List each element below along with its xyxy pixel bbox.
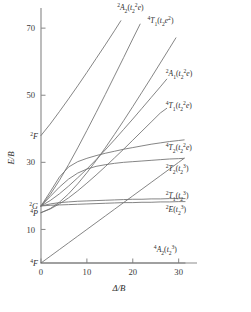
x-tick-label: 20 (128, 267, 137, 277)
axes-group (41, 8, 197, 263)
x-tick-label: 0 (39, 267, 43, 277)
chart-svg: 10305070 0102030 2F2G4P4F 2A2(t22e)4T1(t… (0, 0, 251, 312)
free-ion-term-4F: 4F (30, 258, 39, 268)
tanabe-sugano-chart: 10305070 0102030 2F2G4P4F 2A2(t22e)4T1(t… (0, 0, 251, 312)
curves-group (41, 21, 185, 263)
curve-2A2(t2^2 e) (41, 24, 140, 206)
free-ion-term-2F: 2F (30, 131, 39, 141)
curve-label-2A1(t2^2 e): 2A1(t22e) (166, 68, 193, 80)
y-tick-label: 30 (26, 157, 35, 167)
y-axis-title: E/B (6, 151, 16, 166)
x-axis-ticks: 0102030 (39, 259, 183, 278)
curve-label-2T2(t2^3): 2T2(t23) (166, 163, 189, 175)
curve-2T-steep-branch (41, 140, 184, 206)
curve-2F-branch (41, 21, 121, 136)
y-tick-label: 70 (26, 23, 35, 33)
curve-4T1(t2 e^2) (41, 38, 176, 213)
x-tick-label: 30 (174, 267, 183, 277)
free-ion-term-labels: 2F2G4P4F (29, 131, 39, 269)
curve-label-4T1(t2^2 e): 4T1(t22e) (166, 100, 192, 112)
x-axis-title: Δ/B (112, 283, 127, 293)
y-tick-label: 50 (26, 90, 35, 100)
curve-label-4A2(t2^3): 4A2(t23) (154, 244, 177, 256)
curve-label-2E(t2^3): 2E(t23) (166, 204, 187, 216)
curve-label-2A2(t2^2 e): 2A2(t22e) (117, 2, 144, 14)
x-tick-label: 10 (83, 267, 92, 277)
free-ion-term-4P: 4P (30, 208, 38, 218)
curve-label-2T1(t2^3): 2T1(t23) (166, 190, 189, 202)
curve-label-4T2(t2^2 e): 4T2(t22e) (166, 142, 192, 154)
curve-label-4T1(t2 e^2): 4T1(t2e2) (147, 15, 173, 27)
curve-labels-group: 2A2(t22e)4T1(t2e2)2A1(t22e)4T1(t22e)4T2(… (117, 2, 192, 257)
y-tick-label: 10 (26, 225, 35, 235)
